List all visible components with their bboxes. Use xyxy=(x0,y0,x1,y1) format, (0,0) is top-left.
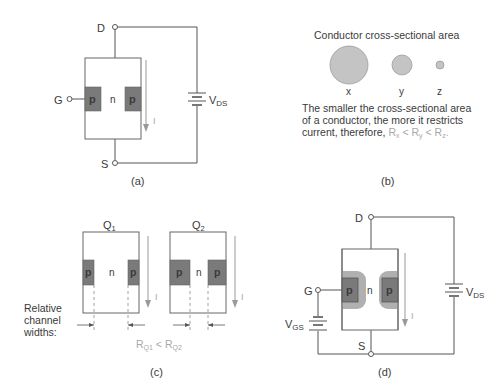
source-label: S xyxy=(358,340,365,352)
q2-current-arrow-icon xyxy=(232,236,238,308)
explanation-line-3: current, therefore, Rx < Ry < Rz. xyxy=(302,126,449,140)
explanation-line-2: of a conductor, the more it restricts xyxy=(302,114,463,126)
battery-vds-icon xyxy=(445,284,463,296)
q2-p-left-label: p xyxy=(176,266,182,278)
transistor-q1: Q1 p n p I xyxy=(77,219,158,333)
n-label: n xyxy=(110,94,116,105)
p-left-label: p xyxy=(89,93,96,105)
gate-label: G xyxy=(54,94,63,106)
circle-z-icon xyxy=(436,61,444,69)
q2-n-label: n xyxy=(196,267,202,278)
gate-terminal-icon xyxy=(67,97,72,102)
q1-p-right-label: p xyxy=(130,266,136,278)
q2-current-label: I xyxy=(241,292,244,302)
q2-p-right-label: p xyxy=(214,266,220,278)
gate-label: G xyxy=(304,285,313,297)
caption-c: (c) xyxy=(150,366,163,378)
drain-terminal-icon xyxy=(113,25,118,30)
vgs-label: VGS xyxy=(285,318,304,332)
circle-y-icon xyxy=(392,55,412,75)
source-terminal-icon xyxy=(369,352,374,357)
q1-label: Q1 xyxy=(103,219,116,233)
p-right-label: p xyxy=(386,284,393,296)
relative-label-1: Relative xyxy=(24,302,62,314)
q2-label: Q2 xyxy=(192,219,205,233)
circle-x-icon xyxy=(330,46,368,84)
battery-vds-icon xyxy=(188,93,206,105)
panel-b: Conductor cross-sectional area x y z The… xyxy=(302,29,471,187)
current-label: I xyxy=(411,311,414,321)
current-arrow-icon xyxy=(402,253,408,327)
conductor-title: Conductor cross-sectional area xyxy=(314,29,459,41)
caption-b: (b) xyxy=(381,175,394,187)
current-label: I xyxy=(153,116,156,126)
circle-x-label: x xyxy=(346,86,351,97)
current-arrow-icon xyxy=(143,60,149,132)
vds-label: VDS xyxy=(209,94,227,108)
vds-label: VDS xyxy=(466,286,484,300)
q1-n-label: n xyxy=(109,267,115,278)
drain-terminal-icon xyxy=(369,215,374,220)
q2-width-marker-icon xyxy=(173,323,225,327)
resistance-relation: RQ1 < RQ2 xyxy=(136,338,182,352)
q1-current-arrow-icon xyxy=(145,236,151,308)
caption-a: (a) xyxy=(131,175,144,187)
figure-canvas: D G S p n p I VDS (a) Conductor cross-se… xyxy=(0,0,499,391)
q1-width-marker-icon xyxy=(77,323,145,327)
p-right-label: p xyxy=(129,93,136,105)
explanation-line-1: The smaller the cross-sectional area xyxy=(302,102,471,114)
n-label: n xyxy=(367,285,373,296)
q1-p-left-label: p xyxy=(85,266,91,278)
drain-label: D xyxy=(97,22,105,34)
source-terminal-icon xyxy=(113,161,118,166)
q1-current-label: I xyxy=(155,292,158,302)
panel-c: Q1 p n p I Q2 xyxy=(23,219,244,378)
relative-label-2: channel xyxy=(24,314,61,326)
relative-label-3: widths: xyxy=(23,326,57,338)
gate-terminal-icon xyxy=(316,288,321,293)
p-left-label: p xyxy=(346,284,353,296)
panel-a: D G S p n p I VDS (a) xyxy=(54,22,227,187)
panel-d: D G S p n p I VDS VGS (d) xyxy=(285,212,484,378)
circle-z-label: z xyxy=(437,86,442,97)
battery-vgs-icon xyxy=(309,317,327,330)
transistor-q2: Q2 p n p I xyxy=(170,219,244,333)
drain-label: D xyxy=(355,212,363,224)
source-label: S xyxy=(101,158,108,170)
circle-y-label: y xyxy=(399,86,404,97)
caption-d: (d) xyxy=(378,366,391,378)
